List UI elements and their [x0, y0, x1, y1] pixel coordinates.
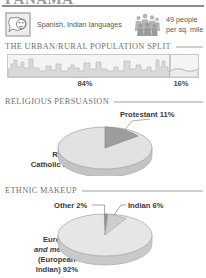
fact-languages-label: Spanish, Indian languages [37, 20, 122, 30]
section-header-urban-rural: THE URBAN/RURAL POPULATION SPLIT [5, 42, 203, 51]
section-title-religion: RELIGIOUS PERSUASION [5, 97, 109, 106]
fact-population-density: 49 people per sq. mile [134, 12, 203, 37]
quick-facts-row: Spanish, Indian languages [0, 12, 206, 40]
urban-rural-silhouette [8, 55, 198, 77]
fact-density-line2: per sq. mile [166, 25, 203, 34]
title-divider [2, 5, 204, 7]
religion-pie-chart: Protestant 11% Roman Catholic 89% [0, 108, 206, 176]
section-title-ethnic: ETHNIC MAKEUP [5, 186, 77, 195]
section-header-religion: RELIGIOUS PERSUASION [5, 97, 203, 106]
fact-density-label: 49 people per sq. mile [166, 15, 203, 34]
ethnic-pie-chart: Other 2% Indian 6% European and mestizo … [0, 197, 206, 278]
fact-density-line1: 49 people [166, 15, 198, 24]
urban-rural-bar [7, 54, 199, 78]
section-rule [114, 101, 203, 103]
fact-languages: Spanish, Indian languages [5, 12, 122, 37]
urban-percent: 84% [7, 79, 163, 88]
section-rule [82, 190, 203, 192]
religion-pie-svg [0, 108, 206, 176]
ethnic-pie-svg [0, 197, 206, 278]
people-group-icon [134, 12, 160, 37]
urban-rural-percent-labels: 84% 16% [7, 79, 199, 89]
infographic-page: PANAMA Spanish, Indian languages [0, 0, 206, 278]
section-header-ethnic: ETHNIC MAKEUP [5, 186, 203, 195]
section-title-urban-rural: THE URBAN/RURAL POPULATION SPLIT [5, 42, 171, 51]
speech-bubble-face-icon [5, 12, 31, 37]
section-rule [176, 46, 203, 48]
urban-rural-chart [7, 54, 199, 78]
rural-percent: 16% [163, 79, 199, 88]
